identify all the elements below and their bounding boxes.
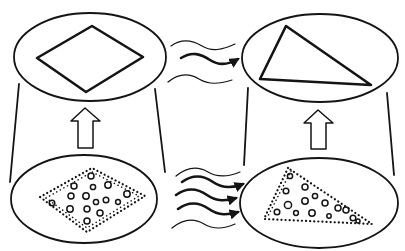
wavy-arrow-bold-icon (181, 54, 238, 64)
wavy-line-thin (168, 75, 232, 83)
connector-left-outer (10, 84, 19, 182)
ellipse-top-right (242, 14, 398, 102)
panel-bottom-right (240, 158, 398, 248)
diamond-shape (37, 26, 143, 92)
dotted-diamond-inner (46, 172, 139, 228)
wavy-arrow-bold-icon (176, 189, 236, 200)
panel-top-right (242, 14, 398, 102)
wavy-line-thin (172, 220, 235, 228)
wavy-arrow-bold-icon (182, 176, 243, 187)
wavy-line-thin (176, 168, 240, 176)
wavy-arrow-bold-icon (178, 203, 238, 214)
dotted-diamond-outline (40, 168, 145, 232)
connector-right-outer (387, 93, 394, 175)
panel-bottom-left (11, 155, 157, 243)
wavy-arrows-bottom (172, 168, 243, 228)
connector-left-inner (155, 89, 165, 172)
connector-right-inner (244, 88, 248, 165)
up-arrow-right-icon (304, 110, 333, 149)
up-arrow-left-icon (71, 108, 100, 148)
wavy-arrows-top (168, 41, 238, 84)
triangle-shape (260, 26, 371, 85)
diagram-canvas (0, 0, 405, 251)
panel-top-left (14, 13, 166, 101)
ellipse-bottom-right (240, 158, 398, 248)
particle-circles (274, 173, 360, 223)
wavy-line-thin (171, 41, 235, 50)
particle-circles (49, 173, 130, 224)
